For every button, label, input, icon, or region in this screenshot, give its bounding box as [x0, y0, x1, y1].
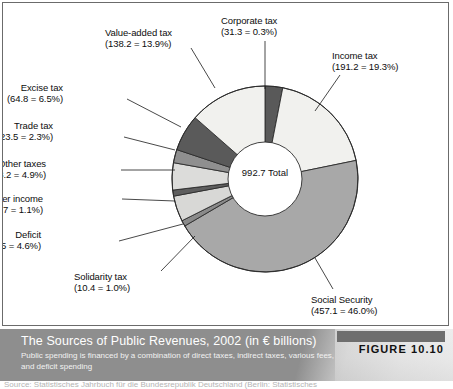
pie-slice-label-value: (23.5 = 2.3%) — [2, 131, 53, 142]
figure-caption-title: The Sources of Public Revenues, 2002 (in… — [21, 334, 317, 348]
pie-slice-label-name: Deficit — [2, 229, 41, 240]
pie-slice-label: Social Security(457.1 = 46.0%) — [311, 294, 377, 316]
source-note-strip: Source: Statistisches Jahrbuch für die B… — [0, 381, 453, 389]
pie-slice-label-name: Social Security — [311, 294, 377, 305]
pie-total-word: Total — [268, 167, 288, 178]
figure-caption-bar: The Sources of Public Revenues, 2002 (in… — [0, 329, 453, 381]
label-leader-line — [315, 75, 340, 111]
label-leader-line — [127, 99, 181, 127]
pie-center-label: 992.7 Total — [225, 167, 305, 179]
figure-root: 992.7 Total Corporate tax(31.3 = 0.3%)In… — [0, 0, 453, 389]
pie-total-value: 992.7 — [242, 167, 266, 178]
pie-slice-label-value: (48.2 = 4.9%) — [2, 169, 46, 180]
pie-slice-label-name: Corporate tax — [221, 15, 277, 26]
pie-slice-label-name: Value-added tax — [105, 27, 172, 38]
label-leader-line — [119, 224, 183, 241]
pie-slice-label-value: (10.4 = 1.0%) — [74, 282, 130, 293]
figure-number-label: FIGURE 10.10 — [359, 343, 444, 355]
pie-slice-label: Trade tax(23.5 = 2.3%) — [2, 120, 53, 142]
pie-slice-label-value: (64.8 = 6.5%) — [7, 93, 63, 104]
pie-slice-label-value: (138.2 = 13.9%) — [105, 38, 172, 49]
pie-slice-label-value: (457.1 = 46.0%) — [311, 305, 377, 316]
pie-slice-label: Income tax(191.2 = 19.3%) — [332, 50, 398, 72]
pie-slice-label: Corporate tax(31.3 = 0.3%) — [221, 15, 277, 37]
label-leader-line — [122, 199, 175, 201]
pie-slice-label-name: Excise tax — [7, 82, 63, 93]
pie-slice-label: Deficit(45.5 = 4.6%) — [2, 229, 41, 251]
pie-slice-label-value: (45.5 = 4.6%) — [2, 240, 41, 251]
source-note-text: Source: Statistisches Jahrbuch für die B… — [4, 381, 317, 389]
label-leader-line — [161, 236, 195, 271]
pie-slice-label-name: Income tax — [332, 50, 398, 61]
label-leader-line — [315, 258, 333, 289]
pie-slice-label-value: (10.7 = 1.1%) — [2, 204, 43, 215]
pie-slice-label-name: Trade tax — [2, 120, 53, 131]
chart-panel: 992.7 Total Corporate tax(31.3 = 0.3%)In… — [2, 2, 449, 326]
pie-slice-label: Other income(10.7 = 1.1%) — [2, 193, 43, 215]
label-leader-line — [191, 48, 215, 88]
pie-center-hole — [228, 142, 302, 216]
pie-slice-label-name: Other taxes — [2, 158, 46, 169]
pie-slice-label: Other taxes(48.2 = 4.9%) — [2, 158, 46, 180]
figure-number-chip — [337, 331, 445, 342]
pie-slice-label-value: (31.3 = 0.3%) — [221, 26, 277, 37]
figure-caption-subtitle: Public spending is financed by a combina… — [21, 350, 341, 372]
pie-slice-label: Excise tax(64.8 = 6.5%) — [7, 82, 63, 104]
label-leader-line — [124, 137, 175, 150]
pie-slice-label-value: (191.2 = 19.3%) — [332, 61, 398, 72]
pie-slice-label-name: Solidarity tax — [74, 271, 130, 282]
pie-slice-label-name: Other income — [2, 193, 43, 204]
pie-slice-label: Value-added tax(138.2 = 13.9%) — [105, 27, 172, 49]
pie-slice-label: Solidarity tax(10.4 = 1.0%) — [74, 271, 130, 293]
